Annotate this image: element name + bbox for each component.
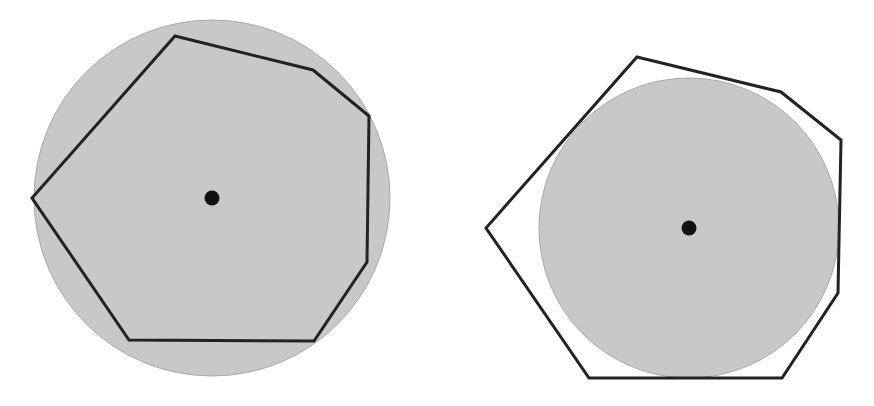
- figure-circumscribed: [486, 57, 841, 378]
- center-dot-left: [205, 191, 220, 206]
- center-dot-right: [682, 221, 697, 236]
- diagram-canvas: [0, 0, 874, 406]
- figure-inscribed: [32, 20, 390, 376]
